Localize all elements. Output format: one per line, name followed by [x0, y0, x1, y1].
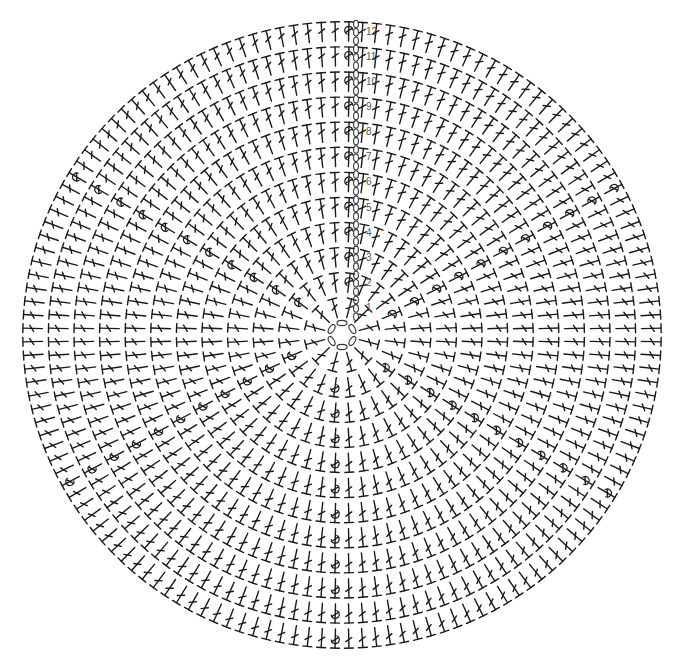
double-crochet-stitch: [503, 520, 519, 537]
double-crochet-stitch: [462, 74, 475, 93]
double-crochet-stitch: [590, 337, 610, 346]
double-crochet-stitch: [409, 462, 422, 481]
double-crochet-stitch: [143, 415, 163, 427]
double-crochet-stitch: [450, 222, 467, 238]
double-crochet-stitch: [262, 543, 273, 563]
round-label: 4: [366, 227, 372, 238]
double-crochet-stitch: [560, 378, 580, 387]
double-crochet-stitch: [400, 572, 409, 592]
double-crochet-stitch: [120, 427, 140, 439]
chain-stitch: [354, 254, 359, 262]
double-crochet-stitch: [57, 405, 77, 414]
double-crochet-stitch: [527, 256, 547, 267]
double-crochet-stitch: [549, 106, 566, 123]
double-crochet-stitch: [427, 235, 444, 252]
double-crochet-stitch: [118, 547, 135, 564]
double-crochet-stitch: [576, 135, 594, 151]
double-crochet-stitch: [372, 423, 383, 443]
double-crochet-stitch: [300, 283, 315, 301]
double-crochet-stitch: [250, 225, 266, 243]
double-crochet-stitch: [279, 322, 299, 331]
double-crochet-stitch: [422, 484, 435, 503]
double-crochet-stitch: [210, 549, 223, 568]
double-crochet-stitch: [316, 72, 325, 91]
double-crochet-stitch: [425, 59, 435, 79]
double-crochet-stitch: [143, 243, 163, 255]
double-crochet-stitch: [553, 256, 573, 266]
double-crochet-stitch: [145, 503, 162, 519]
double-crochet-stitch: [435, 352, 455, 361]
double-crochet-stitch: [210, 377, 230, 388]
double-crochet-stitch: [255, 353, 275, 362]
double-crochet-stitch: [413, 569, 423, 589]
double-crochet-stitch: [183, 282, 203, 292]
double-crochet-stitch: [227, 212, 243, 229]
double-crochet-stitch: [74, 157, 93, 171]
double-crochet-stitch: [54, 392, 74, 401]
double-crochet-stitch: [426, 617, 436, 637]
double-crochet-stitch: [586, 378, 606, 387]
double-crochet-stitch: [572, 428, 592, 440]
double-crochet-stitch: [262, 569, 272, 589]
double-crochet-stitch: [202, 338, 222, 347]
double-crochet-stitch: [303, 23, 312, 42]
double-crochet-stitch: [210, 282, 230, 293]
double-crochet-stitch: [75, 351, 95, 360]
double-crochet-stitch: [80, 269, 100, 279]
double-crochet-stitch: [599, 230, 619, 241]
double-crochet-stitch: [359, 553, 368, 572]
double-crochet-stitch: [288, 472, 298, 492]
double-crochet-stitch: [176, 323, 196, 332]
double-crochet-stitch: [111, 404, 131, 414]
double-crochet-stitch: [616, 205, 636, 217]
double-crochet-stitch: [539, 171, 557, 186]
double-crochet-stitch: [480, 146, 496, 164]
double-crochet-stitch: [580, 256, 600, 266]
double-crochet-stitch: [566, 218, 586, 230]
double-crochet-stitch: [591, 157, 610, 171]
ring-chain: [337, 320, 347, 325]
double-crochet-stitch: [26, 378, 46, 387]
double-crochet-stitch: [193, 256, 212, 269]
double-crochet-stitch: [275, 546, 285, 566]
double-crochet-stitch: [232, 295, 252, 306]
double-crochet-stitch: [215, 389, 234, 402]
double-crochet-stitch: [405, 247, 421, 264]
double-crochet-stitch: [500, 490, 517, 507]
double-crochet-stitch: [522, 415, 542, 427]
double-crochet-stitch: [330, 503, 339, 522]
double-crochet-stitch: [127, 483, 145, 498]
double-crochet-stitch: [532, 206, 551, 220]
double-crochet-stitch: [31, 405, 51, 414]
double-crochet-stitch: [584, 509, 602, 524]
double-crochet-stitch: [173, 586, 187, 605]
double-crochet-stitch: [237, 376, 256, 389]
double-crochet-stitch: [288, 498, 298, 518]
double-crochet-stitch: [187, 536, 202, 554]
double-crochet-stitch: [565, 324, 585, 333]
double-crochet-stitch: [630, 417, 650, 427]
double-crochet-stitch: [104, 451, 123, 464]
double-crochet-stitch: [248, 511, 260, 530]
double-crochet-stitch: [300, 369, 315, 387]
double-crochet-stitch: [23, 351, 43, 360]
double-crochet-stitch: [438, 613, 449, 633]
double-crochet-stitch: [163, 207, 181, 222]
double-crochet-stitch: [275, 468, 287, 487]
double-crochet-stitch: [248, 617, 258, 637]
double-crochet-stitch: [287, 419, 300, 438]
double-crochet-stitch: [186, 220, 204, 235]
double-crochet-stitch: [229, 309, 249, 318]
double-crochet-stitch: [222, 609, 233, 628]
double-crochet-stitch: [249, 195, 263, 214]
double-crochet-stitch: [454, 463, 470, 480]
double-crochet-stitch: [372, 227, 383, 247]
double-crochet-stitch: [373, 551, 382, 571]
double-crochet-stitch: [345, 453, 354, 472]
chain-stitch: [354, 62, 359, 70]
double-crochet-stitch: [451, 609, 462, 628]
double-crochet-stitch: [438, 37, 449, 57]
double-crochet-stitch: [382, 391, 397, 409]
double-crochet-stitch: [98, 218, 118, 230]
double-crochet-stitch: [517, 471, 535, 486]
